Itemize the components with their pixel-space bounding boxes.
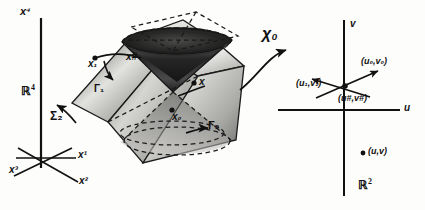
space-label-r4: ℝ4 [21,84,35,97]
curve-label-gamma1: Γ₁ [94,84,104,94]
axis-label-v: v [350,19,356,29]
point-uv-dot [361,151,366,156]
point-label-uv: (u,v) [368,147,387,156]
chi0-map-arrow [240,50,286,90]
r4-axis-star [14,148,78,182]
curve-label-gamma0: Γ₀ [208,120,220,131]
point-label-x: x [199,77,205,87]
point-label-x1: x₁ [88,59,97,69]
axis-x2-line [18,148,78,182]
axis-label-u: u [404,103,410,113]
point-label-usharp-vsharp: (u#,v#) [338,94,367,103]
surface-label-sigma2: Σ₂ [50,110,63,122]
figure-root: x⁴ ℝ4 x¹ x² x³ x₁ x# x x₀ Γ₁ Γ₀ Σ₂ χ₀ v [0,0,425,210]
axis-label-x4: x⁴ [20,6,31,17]
point-usharp-vsharp-dot [342,83,348,89]
point-label-u0v0: (u₀,v₀) [361,57,387,66]
point-label-u1v1: (u₁,v₁) [296,79,321,88]
point-label-x-sharp: x# [126,52,137,62]
r2-axes [278,20,400,196]
axis-x3-line [14,148,72,176]
space-label-r2: ℝ2 [358,178,372,191]
axis-label-x3: x³ [9,165,18,175]
axis-label-x2: x² [79,176,88,186]
point-x-dot [191,80,196,85]
axis-label-x1: x¹ [78,150,87,160]
map-label-chi0: χ₀ [262,26,278,42]
point-label-x0: x₀ [172,112,182,122]
